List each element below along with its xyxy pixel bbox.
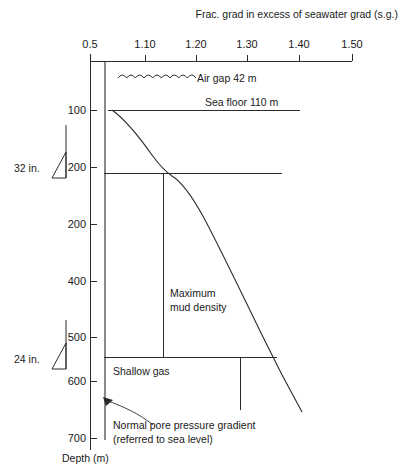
x-tick-label-0.5: 0.5 — [82, 38, 97, 50]
air-gap-label: Air gap 42 m — [197, 72, 257, 84]
pore-pressure-label-line2: (referred to sea level) — [113, 433, 213, 445]
y-tick-label-5: 600 — [68, 375, 86, 387]
casing-shoe-icon-1 — [52, 343, 66, 369]
x-tick-label-1.50: 1.50 — [341, 38, 362, 50]
y-tick-label-6: 700 — [68, 432, 86, 444]
max-mud-density-label-line1: Maximum — [170, 287, 216, 299]
casing-shoe-icon-0 — [52, 152, 66, 178]
x-tick-label-1.40: 1.40 — [288, 38, 309, 50]
casing-marker-0: 32 in. — [14, 125, 66, 178]
y-tick-label-0: 100 — [68, 104, 86, 116]
sea-surface-wave-icon — [118, 75, 196, 78]
pore-pressure-label-line1: Normal pore pressure gradient — [113, 419, 255, 431]
x-axis: 0.51.101.201.301.401.50 — [82, 38, 362, 61]
shallow-gas-label: Shallow gas — [113, 365, 170, 377]
x-axis-title: Frac. grad in excess of seawater grad (s… — [196, 8, 399, 20]
y-axis: 100200200400500600700 — [68, 104, 97, 444]
casing-label-1: 24 in. — [14, 353, 40, 365]
y-axis-title: Depth (m) — [62, 452, 109, 464]
chart-canvas: Frac. grad in excess of seawater grad (s… — [0, 0, 404, 476]
y-tick-label-4: 500 — [68, 331, 86, 343]
y-tick-label-2: 200 — [68, 218, 86, 230]
y-tick-label-1: 200 — [68, 161, 86, 173]
data-series — [105, 61, 302, 440]
sea-floor-label: Sea floor 110 m — [205, 96, 279, 108]
casing-marker-1: 24 in. — [14, 320, 66, 369]
x-tick-label-1.30: 1.30 — [236, 38, 257, 50]
x-tick-label-1.10: 1.10 — [134, 38, 155, 50]
fracture-gradient-chart: Frac. grad in excess of seawater grad (s… — [0, 0, 404, 476]
x-tick-label-1.20: 1.20 — [185, 38, 206, 50]
casing-markers: 32 in.24 in. — [14, 125, 66, 369]
casing-label-0: 32 in. — [14, 162, 40, 174]
y-tick-label-3: 400 — [68, 275, 86, 287]
max-mud-density-label-line2: mud density — [170, 301, 227, 313]
